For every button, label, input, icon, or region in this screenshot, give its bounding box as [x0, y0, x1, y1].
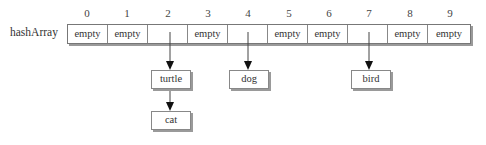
- arrow-icon: [166, 89, 174, 111]
- list-node-turtle: turtle: [151, 70, 191, 89]
- list-node-cat: cat: [151, 111, 191, 130]
- arrow-icon: [365, 32, 373, 70]
- arrow-icon: [166, 32, 174, 70]
- list-node-bird: bird: [351, 70, 391, 89]
- list-node-dog: dog: [229, 70, 269, 89]
- arrow-icon: [244, 32, 252, 70]
